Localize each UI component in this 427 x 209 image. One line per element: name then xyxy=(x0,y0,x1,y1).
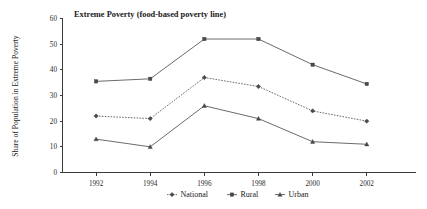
y-tick-label: 10 xyxy=(50,143,58,151)
line-chart: Extreme Poverty (food-based poverty line… xyxy=(0,0,427,209)
y-tick-label: 20 xyxy=(50,118,58,126)
y-tick-label: 0 xyxy=(53,169,57,177)
series-line xyxy=(96,39,367,84)
y-axis-ticks: 0102030405060 xyxy=(50,15,63,177)
series-line xyxy=(96,106,367,147)
y-tick-label: 60 xyxy=(50,15,58,23)
data-point-square xyxy=(94,80,97,83)
data-point-square xyxy=(149,77,152,80)
series-national xyxy=(94,75,369,123)
series-urban xyxy=(94,104,369,149)
data-point-diamond xyxy=(256,84,260,88)
x-tick-label: 1998 xyxy=(251,180,266,188)
series-rural xyxy=(94,37,368,85)
legend-label: National xyxy=(181,190,209,199)
x-tick-label: 2002 xyxy=(360,180,375,188)
series-group xyxy=(94,37,369,148)
legend-item-urban[interactable]: Urban xyxy=(275,190,309,199)
data-point-square xyxy=(365,82,368,85)
data-point-diamond xyxy=(365,119,369,123)
legend-item-rural[interactable]: Rural xyxy=(227,190,259,199)
series-line xyxy=(96,78,367,122)
x-axis-ticks: 199219941996199820002002 xyxy=(89,173,374,188)
x-tick-label: 2000 xyxy=(305,180,320,188)
x-tick-label: 1994 xyxy=(143,180,158,188)
legend-item-national[interactable]: National xyxy=(167,190,209,199)
legend-label: Urban xyxy=(289,190,309,199)
legend-label: Rural xyxy=(241,190,260,199)
x-tick-label: 1996 xyxy=(197,180,212,188)
data-point-square xyxy=(203,37,206,40)
data-point-diamond xyxy=(94,114,98,118)
x-tick-label: 1992 xyxy=(89,180,104,188)
y-axis-title: Share of Population in Extreme Poverty xyxy=(11,35,20,156)
data-point-diamond xyxy=(170,192,174,196)
chart-legend: NationalRuralUrban xyxy=(167,190,309,199)
data-point-square xyxy=(257,37,260,40)
chart-page: Extreme Poverty (food-based poverty line… xyxy=(0,0,427,209)
data-point-square xyxy=(230,193,233,196)
y-tick-label: 50 xyxy=(50,41,58,49)
y-tick-label: 30 xyxy=(50,92,58,100)
data-point-diamond xyxy=(310,109,314,113)
data-point-triangle xyxy=(94,137,98,141)
data-point-triangle xyxy=(202,104,206,108)
data-point-square xyxy=(311,63,314,66)
chart-title: Extreme Poverty (food-based poverty line… xyxy=(74,10,226,19)
y-tick-label: 40 xyxy=(50,66,58,74)
